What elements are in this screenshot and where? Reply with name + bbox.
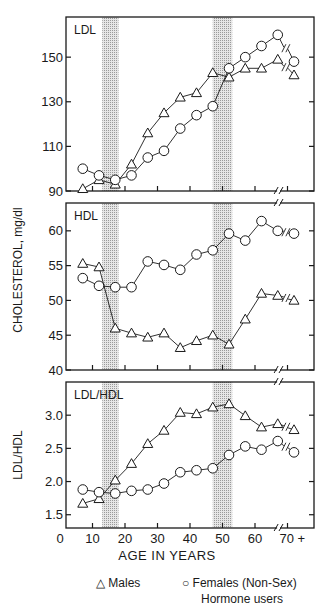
circle-marker: [208, 101, 218, 111]
legend-females-label: Females (Non-Sex): [193, 576, 297, 590]
triangle-marker: [78, 184, 88, 193]
circle-marker: [192, 250, 202, 260]
circle-marker: [257, 41, 267, 51]
circle-marker: [110, 489, 120, 499]
y-tick-label: 40: [49, 363, 63, 378]
triangle-marker: [240, 63, 250, 72]
y-tick-label: 3.0: [45, 408, 63, 423]
panel-label: LDL: [74, 23, 96, 37]
triangle-marker: [78, 259, 88, 268]
circle-marker: [175, 124, 185, 134]
panel-hdl: HDL4045505560: [49, 199, 314, 378]
x-tick-label: 60: [248, 531, 262, 546]
y-tick-label: 50: [49, 293, 63, 308]
circle-marker: [273, 226, 283, 236]
circle-marker: [143, 257, 153, 267]
y-tick-label: 60: [49, 223, 63, 238]
x-axis-label: AGE IN YEARS: [0, 548, 334, 563]
triangle-marker: [240, 411, 250, 420]
circle-marker: [175, 467, 185, 477]
x-tick-label: 10: [85, 531, 99, 546]
circle-marker: [78, 164, 88, 174]
x-tick-label: 50: [215, 531, 229, 546]
triangle-marker: [240, 314, 250, 323]
circle-marker: [224, 450, 234, 460]
x-tick-label: 30: [150, 531, 164, 546]
circle-marker: [240, 236, 250, 246]
ldl-hdl-y-axis-label: LDL/HDL: [11, 430, 25, 480]
cholesterol-chart: LDL90110130150HDL4045505560LDL/HDL1.52.0…: [0, 0, 334, 614]
circle-marker: [143, 153, 153, 163]
circle-marker: [257, 216, 267, 226]
circle-marker-icon: ○: [182, 576, 189, 590]
circle-marker: [273, 436, 283, 446]
y-tick-label: 55: [49, 258, 63, 273]
triangle-marker: [273, 419, 283, 428]
circle-marker: [240, 52, 250, 62]
circle-marker: [94, 281, 104, 291]
circle-marker: [143, 485, 153, 495]
circle-marker: [78, 485, 88, 495]
y-axis-label: CHOLESTEROL, mg/dl: [11, 207, 25, 332]
circle-marker: [289, 57, 299, 67]
legend-females-line2: Hormone users: [201, 592, 283, 606]
circle-marker: [127, 486, 137, 496]
circle-marker: [175, 265, 185, 275]
circle-marker: [192, 110, 202, 120]
y-tick-label: 130: [41, 94, 63, 109]
y-tick-label: 1.5: [45, 507, 63, 522]
legend-males: △ Males: [96, 576, 140, 590]
circle-marker: [78, 273, 88, 283]
circle-marker: [192, 465, 202, 475]
circle-marker: [94, 171, 104, 181]
circle-marker: [257, 445, 267, 455]
circle-marker: [159, 146, 169, 156]
triangle-marker: [273, 54, 283, 63]
y-tick-label: 150: [41, 50, 63, 65]
circle-marker: [110, 282, 120, 292]
triangle-marker: [127, 159, 137, 168]
triangle-marker: [143, 439, 153, 448]
circle-marker: [208, 463, 218, 473]
triangle-marker: [159, 328, 169, 337]
legend-males-label: Males: [108, 576, 140, 590]
triangle-marker: [289, 425, 299, 434]
panel-label: LDL/HDL: [74, 388, 124, 402]
legend-females: ○ Females (Non-Sex): [182, 576, 297, 590]
circle-marker: [224, 229, 234, 239]
circle-marker: [127, 282, 137, 292]
y-tick-label: 2.5: [45, 441, 63, 456]
x-tick-label: 20: [118, 531, 132, 546]
y-tick-label: 90: [49, 184, 63, 199]
panel-ldl-hdl: LDL/HDL1.52.02.53.0010203040506070 +: [45, 378, 314, 546]
triangle-marker: [175, 408, 185, 417]
triangle-marker-icon: △: [96, 576, 105, 590]
circle-marker: [240, 442, 250, 452]
circle-marker: [159, 479, 169, 489]
y-tick-label: 45: [49, 328, 63, 343]
triangle-marker: [257, 288, 267, 297]
x-tick-label: 70 +: [280, 531, 306, 546]
panel-label: HDL: [74, 209, 98, 223]
y-tick-label: 110: [42, 139, 63, 154]
circle-marker: [289, 229, 299, 239]
panel-ldl: LDL90110130150: [41, 17, 314, 199]
circle-marker: [127, 171, 137, 181]
circle-marker: [208, 246, 218, 256]
circle-marker: [110, 175, 120, 185]
circle-marker: [289, 448, 299, 458]
circle-marker: [224, 64, 234, 74]
x-tick-label: 0: [56, 531, 63, 546]
triangle-marker: [257, 63, 267, 72]
circle-marker: [159, 260, 169, 270]
triangle-marker: [192, 336, 202, 345]
y-tick-label: 2.0: [45, 474, 63, 489]
x-tick-label: 40: [183, 531, 197, 546]
circle-marker: [273, 30, 283, 40]
circle-marker: [94, 487, 104, 497]
